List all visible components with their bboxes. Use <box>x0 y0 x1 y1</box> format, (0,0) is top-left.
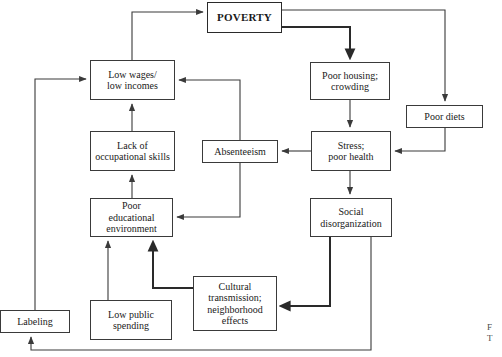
edge-absenteeism-to-low-wages <box>179 80 240 140</box>
figure-caption-fragment: F T <box>487 322 493 345</box>
node-labeling[interactable]: Labeling <box>0 310 70 333</box>
node-poverty-label: POVERTY <box>215 11 274 24</box>
node-poor-housing-label: Poor housing; crowding <box>320 70 380 93</box>
node-stress-poor-health-label: Stress; poor health <box>326 140 375 163</box>
node-lack-occupational-skills-label: Lack of occupational skills <box>93 140 172 163</box>
edge-absenteeism-to-poor-edu <box>177 163 240 217</box>
edge-poverty-to-poor-housing <box>282 27 350 58</box>
edge-labeling-to-low-wages <box>35 79 86 310</box>
node-low-public-spending-label: Low public spending <box>106 309 156 332</box>
edge-poor-diets-to-stress <box>395 128 445 151</box>
node-low-wages-label: Low wages/ low incomes <box>105 69 160 92</box>
node-poor-educational-environment[interactable]: Poor educational environment <box>90 198 173 237</box>
node-lack-occupational-skills[interactable]: Lack of occupational skills <box>90 131 175 171</box>
node-social-disorganization-label: Social disorganization <box>318 206 383 229</box>
node-poor-diets-label: Poor diets <box>422 111 466 122</box>
node-absenteeism[interactable]: Absenteeism <box>202 140 278 163</box>
node-stress-poor-health[interactable]: Stress; poor health <box>311 131 391 171</box>
node-low-public-spending[interactable]: Low public spending <box>90 300 172 340</box>
node-poverty[interactable]: POVERTY <box>207 2 282 33</box>
poverty-cycle-diagram: POVERTY Low wages/ low incomes Poor hous… <box>0 0 502 357</box>
edge-social-dis-to-cultural <box>281 237 330 306</box>
edge-low-wages-to-poverty <box>132 12 203 60</box>
node-social-disorganization[interactable]: Social disorganization <box>310 198 392 237</box>
node-cultural-transmission-label: Cultural transmission; neighborhood effe… <box>205 281 265 327</box>
node-poor-educational-environment-label: Poor educational environment <box>104 200 159 234</box>
edge-cultural-to-poor-edu <box>153 242 193 288</box>
node-low-wages[interactable]: Low wages/ low incomes <box>90 60 175 100</box>
node-cultural-transmission[interactable]: Cultural transmission; neighborhood effe… <box>193 276 277 331</box>
node-poor-housing[interactable]: Poor housing; crowding <box>310 62 390 100</box>
node-labeling-label: Labeling <box>15 316 55 327</box>
node-poor-diets[interactable]: Poor diets <box>406 105 483 128</box>
node-absenteeism-label: Absenteeism <box>212 146 268 157</box>
